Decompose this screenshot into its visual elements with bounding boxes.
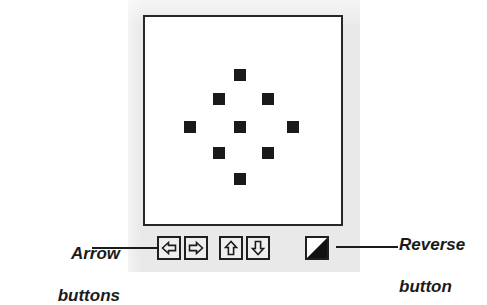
- arrow-down-button[interactable]: [246, 236, 270, 260]
- cell-lower-left[interactable]: [213, 147, 225, 159]
- reverse-button[interactable]: [305, 236, 329, 260]
- cell-upper-right[interactable]: [262, 93, 274, 105]
- arrow-callout-leader-line: [92, 247, 158, 249]
- cell-lower-right[interactable]: [262, 147, 274, 159]
- reverse-button-callout-label: Reverse button: [399, 213, 485, 305]
- cell-center[interactable]: [234, 121, 246, 133]
- application-panel: [128, 0, 360, 272]
- cell-left[interactable]: [184, 121, 196, 133]
- arrow-left-icon: [159, 238, 179, 258]
- arrow-left-button[interactable]: [157, 236, 181, 260]
- cell-upper-left[interactable]: [213, 93, 225, 105]
- arrow-up-button[interactable]: [219, 236, 243, 260]
- arrow-up-icon: [221, 238, 241, 258]
- reverse-icon: [307, 238, 327, 258]
- arrow-buttons-callout-label: Arrow buttons: [8, 222, 120, 305]
- reverse-callout-line-2: button: [399, 276, 485, 297]
- arrow-right-icon: [186, 238, 206, 258]
- cell-bottom[interactable]: [234, 173, 246, 185]
- drawing-canvas[interactable]: [143, 15, 343, 226]
- cell-right[interactable]: [287, 121, 299, 133]
- reverse-callout-line-1: Reverse: [399, 234, 485, 255]
- arrow-right-button[interactable]: [184, 236, 208, 260]
- arrow-callout-line-2: buttons: [8, 285, 120, 305]
- reverse-callout-leader-line: [336, 246, 398, 248]
- toolbar: [128, 233, 360, 265]
- arrow-down-icon: [248, 238, 268, 258]
- cell-top[interactable]: [234, 69, 246, 81]
